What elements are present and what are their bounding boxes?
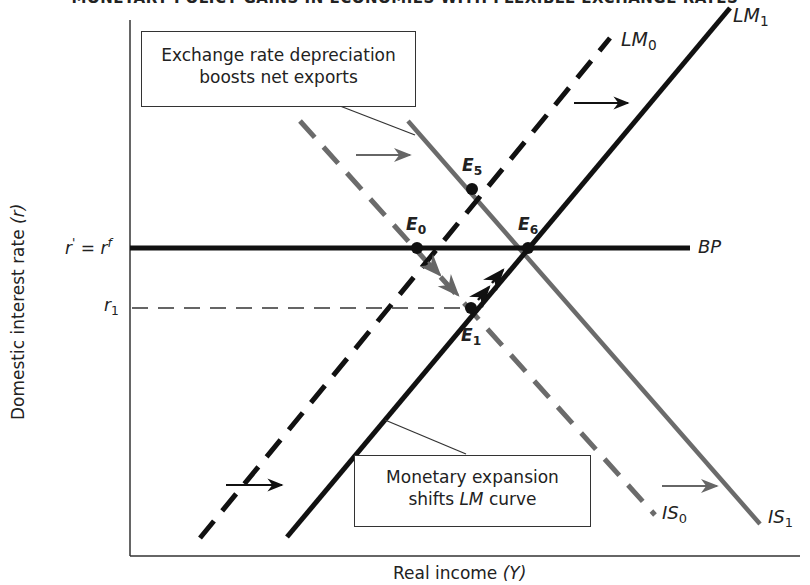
tick-r: r — [65, 238, 72, 258]
is-lm-bp-diagram: MONETARY POLICY GAINS IN ECONOMIES WITH … — [0, 0, 810, 585]
top-box-leader — [340, 106, 415, 135]
bottom-box-leader — [385, 420, 466, 454]
callout-monetary-line2-pre: shifts — [408, 489, 459, 509]
callout-monetary-line2-lm: LM — [459, 489, 483, 509]
y-axis-title-text: Domestic interest rate — [8, 229, 28, 420]
y-axis-title: Domestic interest rate (r) — [8, 204, 28, 420]
label-is0: IS0 — [662, 502, 687, 526]
tick-label-r-prime-equals-rf: r' = rf — [65, 236, 112, 258]
e1-sub: 1 — [473, 334, 482, 348]
callout-monetary-line1: Monetary expansion — [361, 466, 584, 488]
label-lm1: LM1 — [733, 4, 769, 29]
x-axis-symbol: (Y) — [503, 563, 527, 583]
lm1-main: LM — [733, 4, 760, 26]
e0-sub: 0 — [418, 223, 427, 237]
callout-monetary-expansion: Monetary expansion shifts LM curve — [354, 455, 591, 527]
label-e1: E1 — [461, 325, 481, 348]
point-e5 — [466, 183, 478, 195]
tick-sup-f: f — [107, 236, 111, 250]
point-e1 — [465, 302, 477, 314]
label-is1: IS1 — [768, 506, 793, 530]
x-axis-title: Real income (Y) — [393, 563, 526, 583]
tick-label-r1: r1 — [104, 295, 119, 318]
label-e0: E0 — [406, 214, 426, 237]
is1-sub: 1 — [785, 515, 793, 530]
e0-main: E — [406, 214, 418, 234]
label-e5: E5 — [462, 155, 482, 178]
x-axis-title-text: Real income — [393, 563, 497, 583]
point-e6 — [522, 242, 534, 254]
y-axis-symbol: (r) — [8, 204, 28, 224]
label-e6: E6 — [518, 214, 538, 237]
is0-main: IS — [662, 502, 679, 523]
callout-exchange-rate-line1: Exchange rate depreciation — [148, 44, 409, 66]
is0-sub: 0 — [679, 511, 687, 526]
lm0-sub: 0 — [648, 37, 657, 53]
tick-r1-main: r — [104, 295, 111, 315]
e5-main: E — [462, 155, 474, 175]
callout-exchange-rate: Exchange rate depreciation boosts net ex… — [141, 31, 416, 107]
e6-sub: 6 — [530, 223, 539, 237]
callout-exchange-rate-line2: boosts net exports — [148, 66, 409, 88]
e5-sub: 5 — [474, 164, 483, 178]
label-lm0: LM0 — [621, 28, 657, 53]
callout-monetary-line2-post: curve — [484, 489, 537, 509]
e1-main: E — [461, 325, 473, 345]
e6-main: E — [518, 214, 530, 234]
point-e0 — [411, 242, 423, 254]
lm0-main: LM — [621, 28, 648, 50]
is1-main: IS — [768, 506, 785, 527]
lm1-sub: 1 — [760, 13, 769, 29]
callout-monetary-line2: shifts LM curve — [361, 488, 584, 510]
tick-r1-sub: 1 — [111, 304, 119, 318]
label-bp: BP — [698, 236, 721, 257]
